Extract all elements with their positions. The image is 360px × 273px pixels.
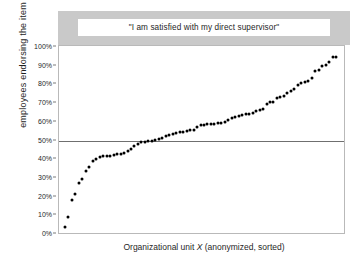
data-point (123, 151, 126, 154)
y-axis-tick-mark (53, 158, 56, 159)
data-point (289, 89, 292, 92)
y-axis-tick-mark (53, 64, 56, 65)
y-axis-tick-mark (53, 102, 56, 103)
data-point (335, 56, 338, 59)
y-axis-tick-mark (53, 214, 56, 215)
data-point (70, 199, 73, 202)
y-axis-label: employees endorsing the item (18, 0, 28, 150)
data-point (265, 102, 268, 105)
data-point (88, 165, 91, 168)
data-point (130, 147, 133, 150)
y-axis-tick-label: 20% (38, 192, 52, 199)
plot-area (58, 45, 345, 234)
data-point (307, 79, 310, 82)
data-point (282, 95, 285, 98)
data-point (196, 126, 199, 129)
reference-line (59, 141, 344, 142)
y-axis-tick-label: 60% (38, 117, 52, 124)
y-axis-tick-mark (53, 46, 56, 47)
data-point (223, 120, 226, 123)
y-axis-tick-label: 80% (38, 80, 52, 87)
data-point (150, 140, 153, 143)
data-point (286, 91, 289, 94)
data-point (227, 118, 230, 121)
data-point (300, 82, 303, 85)
plot-inner (59, 46, 344, 233)
data-point (310, 76, 313, 79)
y-axis-tick-mark (53, 83, 56, 84)
y-axis-tick-label: 30% (38, 173, 52, 180)
data-point (77, 182, 80, 185)
chart-figure: "I am satisfied with my direct superviso… (0, 0, 360, 273)
y-axis-tick-mark (53, 139, 56, 140)
y-axis-ticks: 0%10%20%30%40%50%60%70%80%90%100% (0, 45, 56, 234)
y-axis-tick-label: 70% (38, 99, 52, 106)
title-band: "I am satisfied with my direct superviso… (58, 11, 350, 45)
data-point (161, 136, 164, 139)
y-axis-tick-label: 50% (38, 136, 52, 143)
data-point (91, 160, 94, 163)
data-point (262, 107, 265, 110)
data-point (74, 192, 77, 195)
y-axis-tick-label: 10% (38, 211, 52, 218)
data-point (324, 63, 327, 66)
y-axis-tick-label: 90% (38, 61, 52, 68)
data-point (84, 170, 87, 173)
data-point (67, 216, 70, 219)
y-axis-tick-mark (53, 120, 56, 121)
data-point (293, 88, 296, 91)
data-point (317, 69, 320, 72)
y-axis-tick-mark (53, 176, 56, 177)
y-axis-tick-label: 0% (42, 230, 52, 237)
x-axis-label-suffix: (anonymized, sorted) (202, 242, 284, 252)
x-axis-label-prefix: Organizational unit (123, 242, 196, 252)
data-point (133, 145, 136, 148)
data-point (64, 226, 67, 229)
y-axis-tick-mark (53, 195, 56, 196)
y-axis-tick-label: 100% (34, 43, 52, 50)
chart-title: "I am satisfied with my direct superviso… (129, 23, 280, 32)
y-axis-tick-mark (53, 233, 56, 234)
data-point (328, 60, 331, 63)
data-point (255, 110, 258, 113)
data-point (81, 177, 84, 180)
data-point (251, 112, 254, 115)
data-point (126, 149, 129, 152)
data-point (136, 143, 139, 146)
title-box: "I am satisfied with my direct superviso… (78, 19, 330, 36)
data-point (192, 129, 195, 132)
data-point (296, 84, 299, 87)
data-point (95, 158, 98, 161)
x-axis-label: Organizational unit X (anonymized, sorte… (58, 242, 350, 252)
y-axis-tick-label: 40% (38, 155, 52, 162)
data-point (272, 101, 275, 104)
